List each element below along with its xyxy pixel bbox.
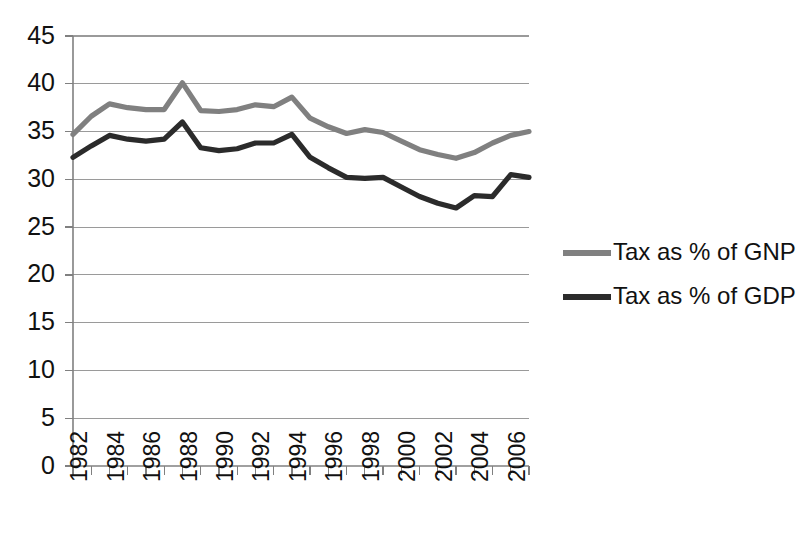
series-line-2 xyxy=(73,122,529,208)
x-axis-tick-label: 2002 xyxy=(431,431,457,482)
y-axis-tick-label: 30 xyxy=(27,164,55,192)
y-axis-tick-label: 5 xyxy=(41,403,55,431)
chart-container: 051015202530354045 198219841986198819901… xyxy=(0,0,810,554)
x-axis-tick-label: 2004 xyxy=(467,431,493,482)
y-axis-tick-label: 45 xyxy=(27,21,55,49)
y-axis-tick-label: 0 xyxy=(41,451,55,479)
y-axis-tick-label: 35 xyxy=(27,116,55,144)
y-axis-tick-label: 20 xyxy=(27,259,55,287)
y-axis-tick-label: 25 xyxy=(27,212,55,240)
data-series-group xyxy=(73,83,529,208)
y-axis-tick-label: 15 xyxy=(27,307,55,335)
x-axis-tick-label: 1988 xyxy=(176,431,202,482)
chart-legend: Tax as % of GNPTax as % of GDP xyxy=(563,238,796,309)
x-axis-tick-label: 2000 xyxy=(394,431,420,482)
x-axis-tick-label: 1994 xyxy=(285,431,311,482)
y-axis-labels-group: 051015202530354045 xyxy=(27,21,55,479)
x-axis-tick-label: 1986 xyxy=(139,431,165,482)
line-chart: 051015202530354045 198219841986198819901… xyxy=(0,0,810,554)
y-axis-tick-label: 40 xyxy=(27,68,55,96)
legend-label-1: Tax as % of GNP xyxy=(613,238,796,265)
legend-label-2: Tax as % of GDP xyxy=(613,282,796,309)
x-axis-tick-label: 1990 xyxy=(212,431,238,482)
y-axis-ticks-group xyxy=(65,36,73,466)
x-axis-tick-label: 1998 xyxy=(358,431,384,482)
x-axis-tick-label: 1996 xyxy=(321,431,347,482)
x-axis-tick-label: 2006 xyxy=(504,431,530,482)
x-axis-tick-label: 1992 xyxy=(248,431,274,482)
x-axis-tick-label: 1982 xyxy=(66,431,92,482)
gridlines-group xyxy=(73,36,529,418)
y-axis-tick-label: 10 xyxy=(27,355,55,383)
x-axis-labels-group: 1982198419861988199019921994199619982000… xyxy=(66,431,530,482)
x-axis-tick-label: 1984 xyxy=(103,431,129,482)
